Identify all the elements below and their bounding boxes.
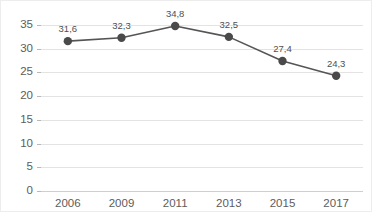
data-point-marker [117,34,125,42]
data-point-label: 34,8 [166,8,185,19]
y-axis-tick-label: 15 [20,113,33,125]
gridlines [37,26,363,192]
data-point-label: 31,6 [59,23,78,34]
x-axis-tick-label: 2011 [163,197,188,209]
data-point-marker [332,72,340,80]
data-point-markers [64,22,341,80]
y-axis-tick-label: 10 [20,137,33,149]
x-axis-tick-label: 2017 [323,197,349,209]
data-series-line [68,26,336,76]
data-point-marker [64,37,72,45]
data-point-label: 32,5 [220,19,239,30]
data-point-marker [225,33,233,41]
y-axis-tick-label: 5 [27,160,33,172]
data-point-marker [171,22,179,30]
data-point-label: 27,4 [273,43,292,54]
y-axis-tick-label: 35 [20,18,33,30]
y-axis-tick-label: 30 [20,42,33,54]
x-axis-tick-label: 2006 [55,197,81,209]
x-axis-tick-labels: 200620092011201320152017 [55,197,349,209]
y-axis-tick-labels: 05101520253035 [20,18,33,196]
y-axis-tick-label: 0 [27,184,33,196]
x-axis-tick-label: 2013 [216,197,242,209]
data-point-label: 24,3 [327,58,346,69]
y-axis-tick-label: 20 [20,89,33,101]
chart-canvas: 05101520253035 200620092011201320152017 … [1,1,372,212]
y-axis-tick-label: 25 [20,65,33,77]
x-axis-tick-label: 2009 [109,197,135,209]
series-polyline [68,26,336,76]
x-axis-tick-label: 2015 [270,197,296,209]
line-chart: 05101520253035 200620092011201320152017 … [0,0,372,212]
data-point-label: 32,3 [112,20,131,31]
data-point-marker [278,57,286,65]
